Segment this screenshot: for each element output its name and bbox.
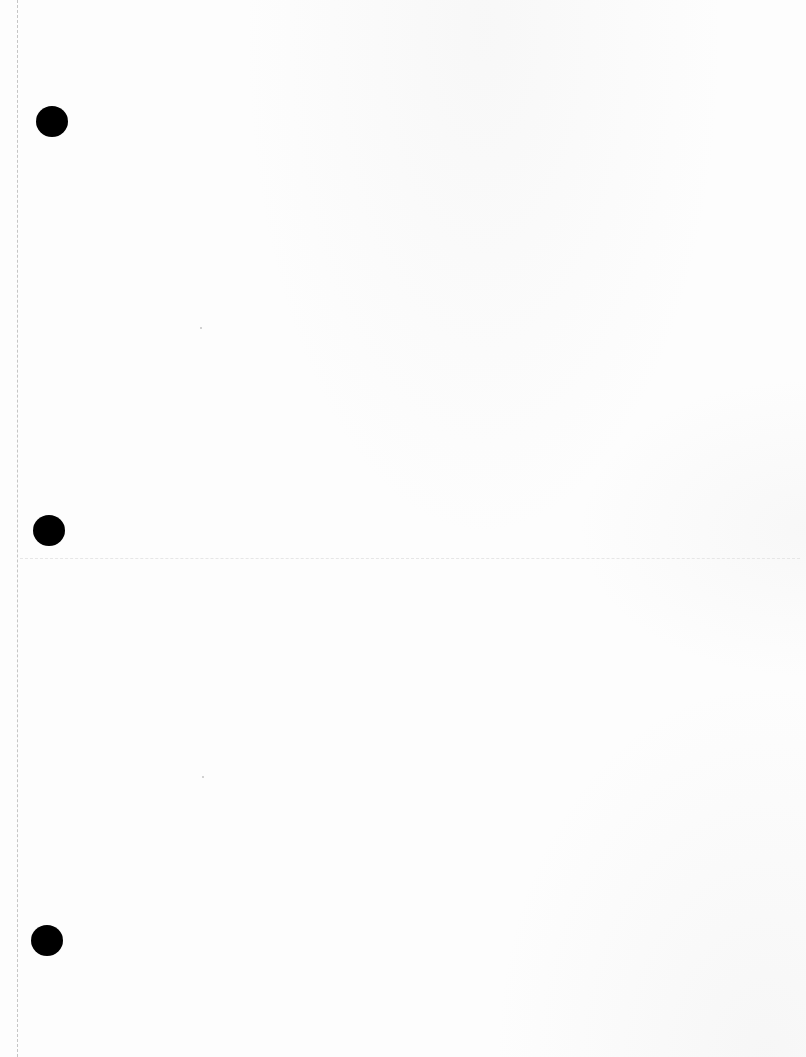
scan-speck <box>202 776 204 778</box>
scan-speck <box>200 327 202 329</box>
scanned-blank-page <box>0 0 806 1057</box>
left-margin-dashed-line <box>17 0 18 1057</box>
hole-punch-middle <box>33 515 65 546</box>
hole-punch-bottom <box>31 925 63 956</box>
hole-punch-top <box>36 106 68 137</box>
horizontal-fold-line <box>20 558 800 559</box>
